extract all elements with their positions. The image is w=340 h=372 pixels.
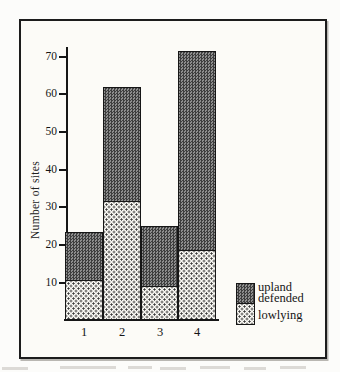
legend-swatch-upland-defended: [236, 283, 255, 304]
x-category-label-1: 1: [65, 325, 103, 340]
y-tick-label-40: 40: [26, 163, 57, 176]
y-tick-mark-30: [59, 206, 67, 208]
bar-segment-lowlying-cat4: [178, 251, 216, 321]
y-tick-mark-60: [59, 93, 67, 95]
bar-segment-lowlying-cat1: [65, 281, 103, 321]
bar-segment-upland-defended-cat1: [65, 232, 103, 281]
y-tick-mark-40: [59, 169, 67, 171]
y-tick-mark-50: [59, 131, 67, 133]
y-tick-label-30: 30: [26, 200, 57, 213]
y-tick-label-70: 70: [26, 50, 57, 63]
legend-label-upland-line2: defended: [258, 293, 304, 304]
legend-swatch-lowlying: [236, 304, 255, 325]
stacked-bar-chart: Number of sites 10203040506070 1234 upla…: [0, 0, 340, 372]
bar-segment-lowlying-cat3: [141, 287, 178, 321]
x-category-label-3: 3: [141, 325, 179, 340]
bar-segment-upland-defended-cat3: [141, 226, 178, 286]
legend-label-lowlying: lowlying: [258, 310, 302, 321]
x-category-label-2: 2: [103, 325, 141, 340]
y-tick-label-50: 50: [26, 125, 57, 138]
legend-label-upland-defended: upland defended: [258, 282, 304, 303]
y-tick-mark-70: [59, 56, 67, 58]
bar-segment-upland-defended-cat2: [103, 87, 141, 202]
y-tick-label-60: 60: [26, 87, 57, 100]
y-tick-label-10: 10: [26, 276, 57, 289]
y-tick-label-20: 20: [26, 238, 57, 251]
bar-segment-upland-defended-cat4: [178, 51, 216, 251]
x-category-label-4: 4: [178, 325, 216, 340]
bar-segment-lowlying-cat2: [103, 202, 141, 321]
